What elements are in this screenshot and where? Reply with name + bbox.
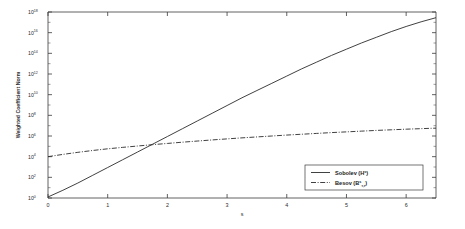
svg-text:2: 2 (166, 202, 169, 208)
semilog-chart: 10010210410610810101012101410161018 0123… (0, 0, 465, 229)
y-axis-title: Weighted Coefficient Norm (15, 71, 21, 138)
figure-background (0, 0, 465, 229)
svg-text:6: 6 (405, 202, 408, 208)
svg-text:5: 5 (345, 202, 348, 208)
x-axis-title: s (241, 211, 244, 217)
legend: Sobolev (Hs) Besov (Bsτ,τ) (305, 165, 423, 190)
svg-text:0: 0 (47, 202, 50, 208)
svg-text:3: 3 (226, 202, 229, 208)
svg-text:4: 4 (285, 202, 288, 208)
figure-container: 10010210410610810101012101410161018 0123… (0, 0, 465, 229)
legend-label-sobolev: Sobolev (Hs) (335, 170, 368, 176)
svg-text:1: 1 (106, 202, 109, 208)
